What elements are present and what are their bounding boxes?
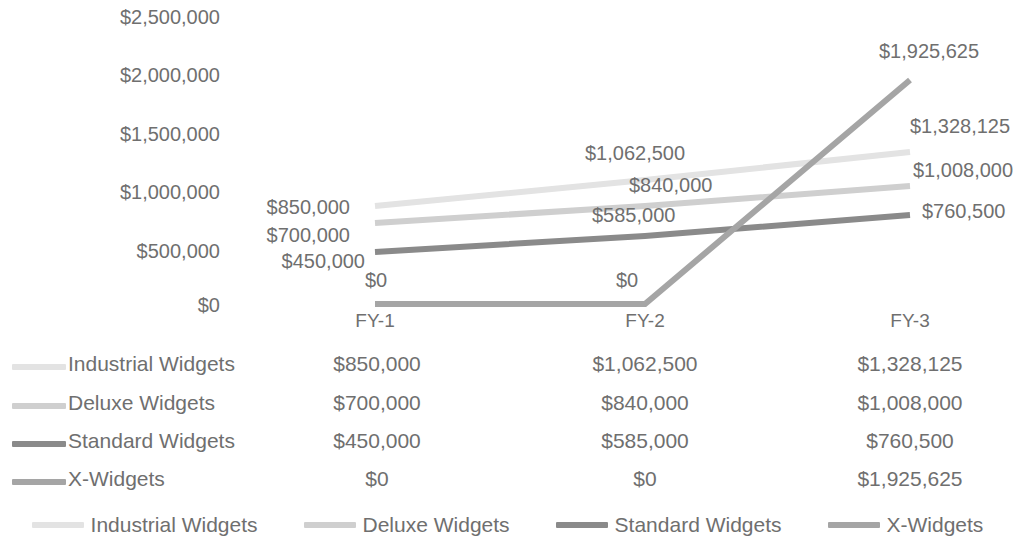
table-cell: $700,000 — [277, 387, 477, 419]
series-color-swatch-standard — [12, 441, 66, 447]
table-row: Standard Widgets $450,000 $585,000 $760,… — [0, 425, 1015, 463]
x-axis-tick-label-fy3: FY-3 — [890, 310, 929, 332]
legend-item-deluxe-widgets[interactable]: Deluxe Widgets — [304, 513, 510, 537]
table-cell: $585,000 — [545, 425, 745, 457]
table-cell: $850,000 — [277, 348, 477, 380]
table-cell: $840,000 — [545, 387, 745, 419]
data-label-deluxe-fy2: $840,000 — [629, 174, 712, 197]
legend-item-x-widgets[interactable]: X-Widgets — [828, 513, 984, 537]
data-label-standard-fy3: $760,500 — [922, 200, 1005, 223]
data-label-standard-fy1: $450,000 — [282, 250, 365, 273]
line-chart: $2,500,000 $2,000,000 $1,500,000 $1,000,… — [0, 0, 1015, 544]
legend-item-industrial-widgets[interactable]: Industrial Widgets — [32, 513, 258, 537]
table-cell: $450,000 — [277, 425, 477, 457]
data-label-standard-fy2: $585,000 — [592, 204, 675, 227]
x-axis-tick-label-fy2: FY-2 — [625, 310, 664, 332]
chart-data-table: Industrial Widgets $850,000 $1,062,500 $… — [0, 340, 1015, 500]
x-axis-tick-label-fy1: FY-1 — [355, 310, 394, 332]
y-axis-tick-label: $0 — [0, 294, 220, 317]
series-color-swatch-deluxe — [12, 403, 66, 409]
data-label-industrial-fy2: $1,062,500 — [585, 142, 685, 165]
legend-item-label: Standard Widgets — [615, 513, 782, 537]
table-row: X-Widgets $0 $0 $1,925,625 — [0, 463, 1015, 501]
table-row-label: Deluxe Widgets — [68, 387, 215, 419]
table-cell: $760,500 — [810, 425, 1010, 457]
y-axis-tick-label: $500,000 — [0, 240, 220, 263]
y-axis-tick-label: $1,500,000 — [0, 123, 220, 146]
table-row-label: Standard Widgets — [68, 425, 235, 457]
table-cell: $1,925,625 — [810, 463, 1010, 495]
series-color-swatch-industrial — [12, 364, 66, 370]
series-color-swatch-xwidgets — [12, 479, 66, 485]
y-axis-tick-label: $2,500,000 — [0, 6, 220, 29]
legend-item-label: X-Widgets — [887, 513, 984, 537]
data-label-industrial-fy3: $1,328,125 — [910, 115, 1010, 138]
table-cell: $0 — [545, 463, 745, 495]
legend-item-label: Deluxe Widgets — [363, 513, 510, 537]
chart-legend: Industrial Widgets Deluxe Widgets Standa… — [0, 505, 1015, 544]
table-row-label: Industrial Widgets — [68, 348, 235, 380]
table-row: Deluxe Widgets $700,000 $840,000 $1,008,… — [0, 387, 1015, 425]
legend-color-swatch — [32, 522, 84, 528]
table-cell: $1,062,500 — [545, 348, 745, 380]
table-cell: $1,328,125 — [810, 348, 1010, 380]
legend-item-label: Industrial Widgets — [91, 513, 258, 537]
legend-item-standard-widgets[interactable]: Standard Widgets — [556, 513, 782, 537]
legend-color-swatch — [556, 522, 608, 528]
data-label-deluxe-fy1: $700,000 — [267, 224, 350, 247]
data-label-xwidgets-fy2: $0 — [616, 269, 638, 292]
data-label-industrial-fy1: $850,000 — [267, 196, 350, 219]
table-row: Industrial Widgets $850,000 $1,062,500 $… — [0, 348, 1015, 386]
data-label-xwidgets-fy1: $0 — [365, 269, 387, 292]
table-cell: $1,008,000 — [810, 387, 1010, 419]
legend-color-swatch — [304, 522, 356, 528]
table-row-label: X-Widgets — [68, 463, 165, 495]
data-label-xwidgets-fy3: $1,925,625 — [879, 40, 979, 63]
table-cell: $0 — [277, 463, 477, 495]
data-label-deluxe-fy3: $1,008,000 — [913, 159, 1013, 182]
legend-color-swatch — [828, 522, 880, 528]
y-axis-tick-label: $1,000,000 — [0, 181, 220, 204]
y-axis-tick-label: $2,000,000 — [0, 64, 220, 87]
